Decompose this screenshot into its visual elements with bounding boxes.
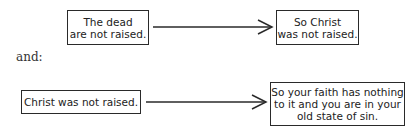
box-text-line: So Christ (294, 16, 341, 28)
box-text-line: The dead (83, 16, 132, 28)
box-text-line: are not raised. (70, 28, 146, 40)
box-text-line: So your faith has nothing (271, 86, 404, 98)
box-text-line: old state of sin. (297, 110, 378, 122)
box-text-line: to it and you are in your (274, 98, 401, 110)
arrow-icon (150, 18, 276, 36)
box-dead-not-raised: The dead are not raised. (67, 10, 149, 45)
box-text-line: was not raised. (278, 28, 358, 40)
box-text-line: Christ was not raised. (24, 96, 138, 108)
arrow-icon (143, 93, 270, 111)
connector-text: and: (16, 50, 43, 64)
box-christ-not-raised: So Christ was not raised. (276, 10, 359, 45)
box-christ-was-not-raised: Christ was not raised. (21, 90, 141, 114)
box-faith-nothing: So your faith has nothing to it and you … (270, 82, 405, 126)
